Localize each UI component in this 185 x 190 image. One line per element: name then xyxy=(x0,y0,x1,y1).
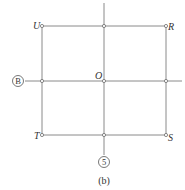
axis-marker-5: 5 xyxy=(102,157,106,167)
label-S: S xyxy=(168,132,173,143)
node-O xyxy=(102,79,105,82)
label-R: R xyxy=(167,21,174,32)
node-bottom-mid xyxy=(102,133,105,136)
node-right-mid xyxy=(164,79,167,82)
label-O: O xyxy=(95,70,102,81)
grid-diagram: U R O T S B 5 (b) xyxy=(0,0,185,190)
label-T: T xyxy=(34,130,41,141)
node-top-mid xyxy=(102,24,105,27)
caption: (b) xyxy=(98,175,110,187)
label-U: U xyxy=(33,20,41,31)
node-left-mid xyxy=(40,79,43,82)
node-T xyxy=(40,133,43,136)
node-U xyxy=(40,24,43,27)
axis-marker-B: B xyxy=(15,76,21,86)
